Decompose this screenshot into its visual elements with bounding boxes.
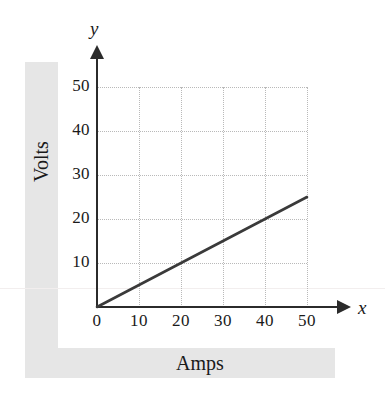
series-polyline	[97, 197, 307, 307]
x-axis-tick-labels: 01020304050	[0, 311, 385, 337]
y-tick-label: 10	[50, 252, 90, 272]
y-tick-label: 30	[50, 164, 90, 184]
x-tick-label: 10	[119, 311, 159, 331]
y-tick-label: 20	[50, 208, 90, 228]
y-axis-variable-label: y	[90, 18, 98, 40]
y-tick-label: 40	[50, 120, 90, 140]
x-tick-label: 20	[161, 311, 201, 331]
figure-graph-volts-vs-amps: y x 1020304050 01020304050 Volts Amps	[0, 0, 385, 396]
data-series-line	[97, 87, 307, 307]
x-tick-label: 50	[287, 311, 327, 331]
x-tick-label: 40	[245, 311, 285, 331]
x-tick-label: 0	[77, 311, 117, 331]
x-axis-title: Amps	[130, 352, 270, 375]
x-tick-label: 30	[203, 311, 243, 331]
y-tick-label: 50	[50, 76, 90, 96]
y-axis-arrow-icon	[90, 45, 104, 59]
y-axis-title: Volts	[30, 117, 53, 207]
